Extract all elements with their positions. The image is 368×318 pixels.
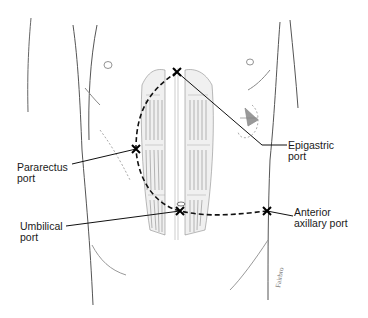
- leader-lines: [66, 72, 293, 226]
- label-umbilical-port: Umbilical port: [20, 221, 63, 243]
- port-placement-figure: Fairbro Epigastric port Pararectus port …: [0, 0, 368, 318]
- label-pararectus-port: Pararectus port: [17, 162, 68, 184]
- nipple-marks: [104, 59, 254, 69]
- rectus-muscle-left: [141, 70, 165, 235]
- label-line: port: [17, 173, 68, 184]
- label-line: port: [288, 151, 334, 162]
- epigastric-port-marker: [173, 68, 181, 76]
- label-anterior-axillary-port: Anterior axillary port: [294, 207, 348, 229]
- rectus-muscle-right: [185, 70, 213, 235]
- artist-signature: Fairbro: [274, 266, 286, 288]
- label-line: axillary port: [294, 218, 348, 229]
- label-epigastric-port: Epigastric port: [288, 140, 334, 162]
- label-line: port: [20, 232, 63, 243]
